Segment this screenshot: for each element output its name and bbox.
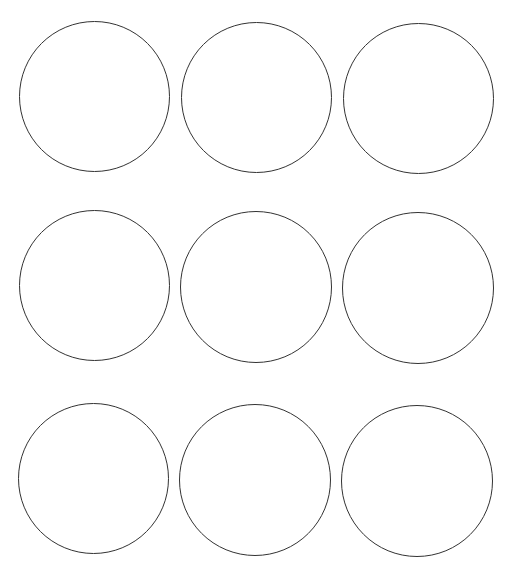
circle-r2-c1: [19, 210, 170, 361]
circle-r3-c3: [341, 405, 493, 557]
circle-r2-c2: [180, 211, 332, 363]
circle-r3-c2: [179, 404, 331, 556]
circle-r1-c3: [343, 23, 494, 174]
circle-label-sheet: [0, 0, 509, 579]
circle-r2-c3: [342, 212, 494, 364]
circle-r1-c1: [19, 21, 170, 172]
circle-r1-c2: [181, 22, 332, 173]
circle-r3-c1: [18, 403, 169, 554]
